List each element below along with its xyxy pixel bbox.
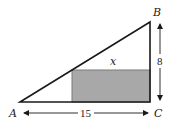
vertex-label-c: C bbox=[154, 107, 163, 120]
rectangle-width-label: x bbox=[110, 55, 117, 68]
base-label: 15 bbox=[80, 107, 92, 119]
shaded-rectangle bbox=[72, 70, 150, 102]
vertex-label-b: B bbox=[152, 6, 161, 19]
vertex-label-a: A bbox=[8, 107, 17, 120]
triangle-diagram: A B C x 8 15 bbox=[0, 0, 172, 126]
height-label: 8 bbox=[157, 55, 163, 67]
